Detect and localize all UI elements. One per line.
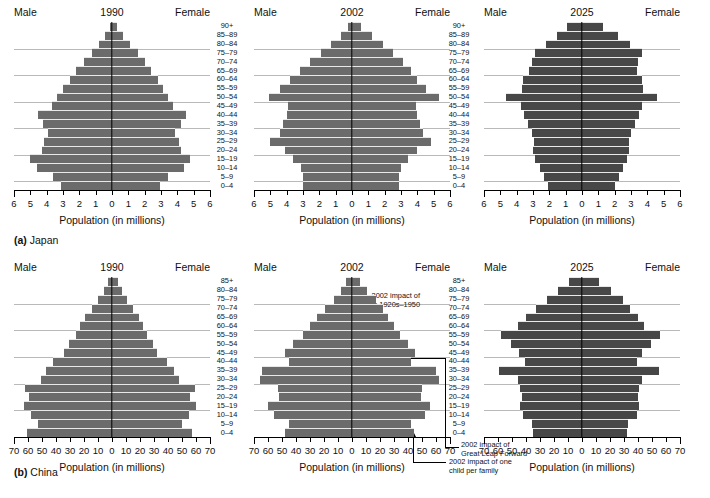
- bar-female: [352, 75, 417, 84]
- x-tick-label: 3: [158, 198, 163, 209]
- age-group-label: 30–34: [205, 129, 249, 136]
- x-tick-label: 30: [305, 445, 316, 456]
- x-tick-label: 10: [93, 445, 104, 456]
- age-group-label: 65–69: [205, 67, 249, 74]
- age-group-label: 80–84: [205, 40, 249, 47]
- bar-male: [567, 22, 582, 31]
- bar-female: [112, 384, 195, 393]
- leader-line-one-child-v: [413, 437, 414, 463]
- center-axis: [351, 22, 352, 190]
- axis-tick: [664, 190, 665, 195]
- x-tick-label: 50: [277, 445, 288, 456]
- bar-female: [352, 392, 421, 401]
- bar-female: [582, 357, 637, 366]
- bar-female: [352, 330, 400, 339]
- x-tick-label: 30: [149, 445, 160, 456]
- axis-tick: [624, 437, 625, 442]
- bar-male: [523, 410, 582, 419]
- axis-tick: [270, 190, 271, 195]
- x-tick-label: 10: [361, 445, 372, 456]
- axis-tick: [596, 437, 597, 442]
- bar-female: [112, 277, 118, 286]
- axis-tick: [296, 437, 297, 442]
- bar-female: [352, 154, 408, 163]
- axis-tick: [598, 190, 599, 195]
- bar-female: [112, 48, 138, 57]
- year-label: 2025: [570, 6, 593, 18]
- x-axis: [484, 190, 680, 198]
- plot-area: [14, 277, 210, 437]
- bar-male: [38, 419, 112, 428]
- axis-tick: [352, 437, 353, 442]
- x-tick-label: 10: [121, 445, 132, 456]
- bar-male: [38, 110, 112, 119]
- age-group-label: 50–54: [205, 93, 249, 100]
- bar-female: [112, 410, 189, 419]
- age-group-label: 5–9: [205, 420, 249, 427]
- axis-tick: [615, 190, 616, 195]
- x-tick-label: 2: [547, 198, 552, 209]
- bar-male: [521, 101, 582, 110]
- bar-male: [99, 40, 112, 49]
- bar-female: [352, 57, 403, 66]
- axis-tick: [568, 437, 569, 442]
- x-tick-label: 70: [9, 445, 20, 456]
- bar-male: [520, 384, 582, 393]
- x-tick-label: 5: [498, 198, 503, 209]
- axis-tick: [254, 437, 255, 444]
- bar-male: [48, 128, 112, 137]
- axis-tick: [310, 437, 311, 442]
- bar-male: [280, 84, 352, 93]
- x-tick-label: 1: [366, 198, 371, 209]
- axis-tick: [385, 190, 386, 195]
- age-group-label: 90+: [205, 22, 249, 29]
- bar-female: [352, 366, 436, 375]
- bar-male: [92, 48, 112, 57]
- bar-male: [98, 295, 112, 304]
- axis-tick: [533, 190, 534, 195]
- center-axis: [111, 277, 112, 437]
- age-group-label: 30–34: [205, 375, 249, 382]
- bar-female: [112, 419, 182, 428]
- bar-female: [582, 410, 637, 419]
- bar-male: [285, 348, 352, 357]
- x-tick-label: 0: [349, 445, 354, 456]
- bar-female: [112, 401, 196, 410]
- x-tick-label: 60: [263, 445, 274, 456]
- bar-female: [582, 375, 642, 384]
- bar-male: [301, 163, 352, 172]
- bar-female: [582, 321, 644, 330]
- bar-female: [112, 154, 190, 163]
- bar-male: [532, 419, 582, 428]
- x-tick-label: 5: [28, 198, 33, 209]
- x-tick-label: 20: [549, 445, 560, 456]
- bar-male: [44, 137, 112, 146]
- caption-text: China: [27, 466, 57, 478]
- x-tick-label: 5: [268, 198, 273, 209]
- age-group-label: 55–59: [205, 84, 249, 91]
- bar-female: [582, 392, 638, 401]
- x-tick-label: 3: [398, 198, 403, 209]
- axis-tick: [194, 190, 195, 195]
- bar-male: [511, 339, 582, 348]
- bar-male: [518, 375, 582, 384]
- bar-male: [61, 181, 112, 190]
- axis-tick: [254, 190, 255, 197]
- bar-male: [544, 172, 582, 181]
- bar-male: [29, 392, 112, 401]
- age-group-label: 25–29: [205, 137, 249, 144]
- age-group-label: 45–49: [205, 349, 249, 356]
- axis-tick: [268, 437, 269, 442]
- axis-tick: [366, 437, 367, 442]
- axis-tick: [566, 190, 567, 195]
- age-group-label: 35–39: [205, 120, 249, 127]
- bar-male: [536, 304, 582, 313]
- x-tick-labels: 6543210123456: [14, 198, 210, 211]
- x-tick-label: 5: [191, 198, 196, 209]
- bar-male: [506, 93, 582, 102]
- pyramid-panel-china-1990: Male1990Female70605040302010010203040506…: [14, 261, 210, 473]
- bar-female: [352, 137, 431, 146]
- bar-female: [112, 22, 117, 31]
- bar-male: [293, 339, 352, 348]
- bar-female: [112, 304, 133, 313]
